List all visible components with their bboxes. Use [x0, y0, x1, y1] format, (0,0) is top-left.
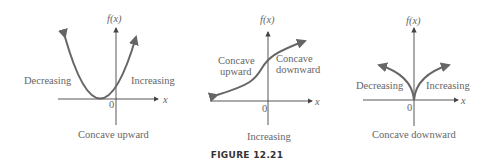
concave-upward-label: Concave upward — [78, 129, 150, 140]
origin-label: 0 — [262, 103, 267, 114]
x-axis-label: x — [460, 95, 466, 106]
x-axis-label: x — [162, 94, 168, 105]
x-axis-label: x — [314, 96, 320, 107]
increasing-label: Increasing — [131, 75, 175, 86]
concave-downward-label-1: Concave — [276, 53, 313, 64]
decreasing-label: Decreasing — [356, 80, 404, 91]
origin-label: 0 — [109, 99, 114, 110]
concave-downward-label: Concave downward — [372, 129, 456, 140]
increasing-label: Increasing — [426, 80, 470, 91]
y-axis-label: f(x) — [406, 15, 421, 27]
origin-label: 0 — [407, 102, 412, 113]
increasing-label: Increasing — [247, 131, 291, 142]
concave-upward-label-2: upward — [220, 66, 252, 77]
figure-diagram: f(x) x 0 Decreasing Increasing Concave u… — [0, 0, 494, 168]
figure-caption: FIGURE 12.21 — [0, 150, 494, 160]
concave-upward-label-1: Concave — [218, 55, 255, 66]
panel-concave-upward: f(x) x 0 Decreasing Increasing Concave u… — [24, 13, 175, 140]
parabola-curve — [65, 37, 136, 99]
y-axis-label: f(x) — [260, 14, 275, 26]
concave-downward-label-2: downward — [276, 64, 321, 75]
y-axis-label: f(x) — [107, 13, 122, 25]
panel-inflection: f(x) x 0 Concave upward Concave downward… — [210, 14, 321, 142]
panel-concave-downward: f(x) x 0 Decreasing Increasing Concave d… — [356, 15, 470, 140]
decreasing-label: Decreasing — [24, 75, 72, 86]
